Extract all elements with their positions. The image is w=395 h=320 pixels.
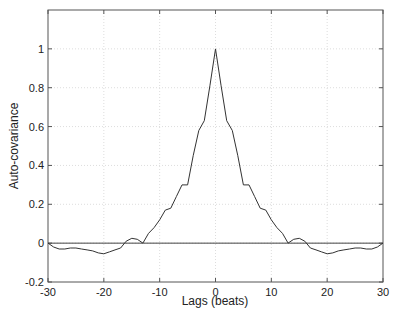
- y-tick-label: 0: [38, 237, 44, 249]
- y-tick-label: -0.2: [25, 276, 44, 288]
- x-tick-label: -10: [152, 286, 168, 298]
- y-tick-labels: -0.200.20.40.60.81: [25, 43, 44, 288]
- x-tick-label: 10: [265, 286, 277, 298]
- x-tick-label: 20: [321, 286, 333, 298]
- x-tick-label: -20: [96, 286, 112, 298]
- y-tick-label: 0.4: [29, 159, 44, 171]
- y-tick-label: 0.8: [29, 82, 44, 94]
- autocovariance-chart: -30-20-100102030 -0.200.20.40.60.81 Lags…: [0, 0, 395, 320]
- y-tick-label: 0.6: [29, 121, 44, 133]
- y-tick-label: 1: [38, 43, 44, 55]
- x-tick-label: 30: [377, 286, 389, 298]
- y-tick-label: 0.2: [29, 198, 44, 210]
- x-axis-label: Lags (beats): [182, 294, 249, 308]
- y-axis-label: Auto-covariance: [7, 102, 21, 189]
